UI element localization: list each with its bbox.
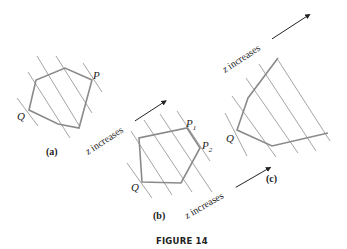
svg-text:z increases: z increases — [82, 124, 125, 157]
point-q-label: Q — [17, 110, 25, 122]
panel-c: Q (c) — [225, 58, 330, 185]
feasible-polygon-b — [139, 128, 200, 183]
svg-text:z increases: z increases — [219, 42, 262, 75]
z-increases-arrow-2: z increases — [182, 162, 273, 221]
z-increases-arrow-1: z increases — [82, 96, 169, 158]
figure-caption: FIGURE 14 — [156, 236, 208, 246]
point-p-label: P — [92, 69, 100, 81]
point-q-label-c: Q — [226, 132, 234, 144]
level-lines-a — [17, 56, 102, 138]
feasible-region-c — [237, 58, 328, 146]
point-p2-label: P2 — [201, 139, 213, 154]
panel-a-label: (a) — [46, 146, 58, 158]
point-q-label-b: Q — [131, 181, 139, 193]
panel-c-label: (c) — [266, 173, 277, 185]
level-lines-c — [225, 60, 330, 157]
z-increases-arrow-3: z increases — [219, 9, 312, 75]
figure-14-diagram: P Q (a) z increases P1 P2 Q (b) z increa… — [0, 0, 347, 249]
point-p1-label: P1 — [185, 117, 196, 132]
panel-b-label: (b) — [153, 210, 165, 222]
svg-text:z increases: z increases — [182, 190, 226, 222]
